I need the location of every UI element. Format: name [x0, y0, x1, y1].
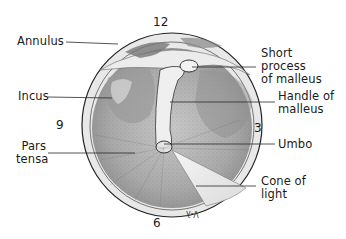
- label-annulus: Annulus: [17, 35, 64, 48]
- label-incus: Incus: [18, 90, 49, 103]
- clock-12: 12: [153, 16, 168, 29]
- label-pars-tensa: Pars tensa: [16, 140, 46, 166]
- clock-3: 3: [254, 122, 262, 135]
- leader-annulus: [66, 42, 118, 44]
- label-short-process-of-malleus: Short process of malleus: [261, 47, 322, 86]
- clock-6: 6: [153, 217, 161, 230]
- label-cone-of-light: Cone of light: [261, 175, 306, 201]
- label-short-process-line3: of malleus: [261, 73, 322, 86]
- label-umbo: Umbo: [278, 138, 312, 151]
- label-handle-of-malleus: Handle of malleus: [278, 90, 334, 116]
- label-handle-line2: malleus: [278, 103, 334, 116]
- label-cone-line2: light: [261, 188, 306, 201]
- label-pars-tensa-line2: tensa: [16, 153, 46, 166]
- short-process-of-malleus: [180, 60, 198, 72]
- artist-signature: V-λ: [186, 209, 199, 218]
- clock-9: 9: [56, 119, 64, 132]
